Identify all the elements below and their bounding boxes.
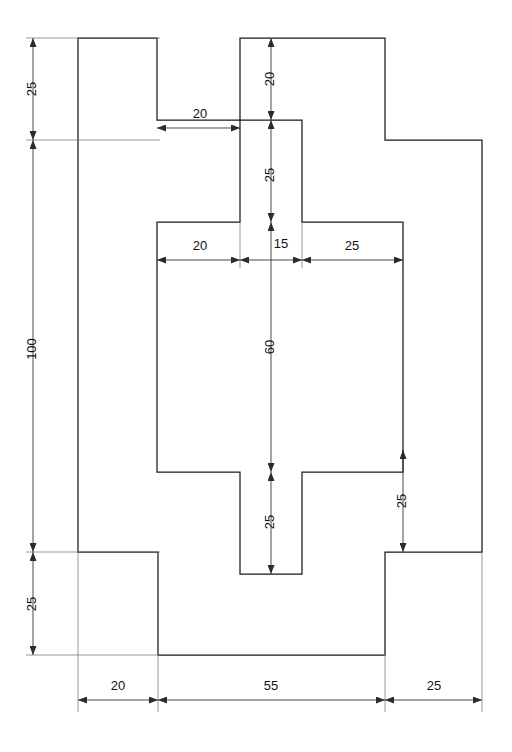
bottom-dimension-chain: 20 55 25	[78, 552, 482, 712]
center-horizontal-dimension-chain: 20 15 25	[157, 222, 403, 268]
dim-label-left-100: 100	[24, 338, 39, 360]
dim-label-center-vert-25: 25	[262, 168, 277, 182]
dim-label-center-25: 25	[345, 238, 359, 253]
dim-label-bottom-20: 20	[111, 678, 125, 693]
center-vertical-dimension-chain: 20 25 60 25	[262, 38, 277, 574]
left-dimension-chain: 25 100 25	[24, 38, 160, 655]
dim-label-center-vert-20: 20	[262, 72, 277, 86]
dim-label-center-15: 15	[274, 236, 288, 251]
dim-label-upper-20: 20	[193, 106, 207, 121]
upper-horizontal-dimension: 20	[157, 106, 240, 128]
dim-label-center-20: 20	[193, 238, 207, 253]
right-vertical-dimension: 25	[394, 450, 409, 552]
technical-drawing-canvas: 25 100 25 20 55 25 20	[0, 0, 512, 752]
engineering-drawing-svg: 25 100 25 20 55 25 20	[0, 0, 512, 752]
dim-label-center-vert-60: 60	[262, 340, 277, 354]
dim-label-left-top-25: 25	[24, 82, 39, 96]
dim-label-bottom-55: 55	[264, 678, 278, 693]
dim-label-bottom-25: 25	[427, 678, 441, 693]
part-inner-profile	[157, 120, 403, 574]
dim-label-right-25: 25	[394, 494, 409, 508]
part-outer-outline	[78, 38, 482, 655]
dim-label-center-vert-bottom-25: 25	[262, 515, 277, 529]
dim-label-left-bottom-25: 25	[24, 597, 39, 611]
